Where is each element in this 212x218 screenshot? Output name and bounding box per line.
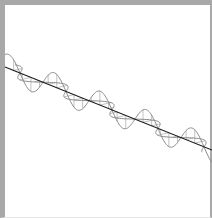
propagation-axis	[5, 67, 212, 150]
em-wave-diagram	[0, 0, 212, 218]
